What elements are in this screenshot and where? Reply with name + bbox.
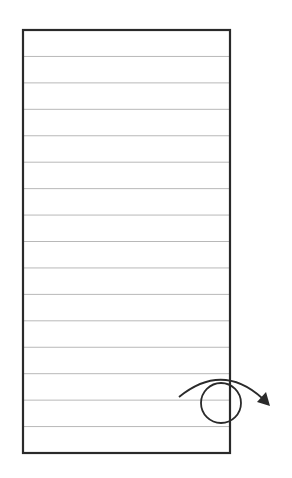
ruled-lines <box>24 56 229 426</box>
arrowhead-icon <box>257 392 270 406</box>
rotation-circle <box>201 383 241 423</box>
diagram-canvas <box>0 0 292 478</box>
